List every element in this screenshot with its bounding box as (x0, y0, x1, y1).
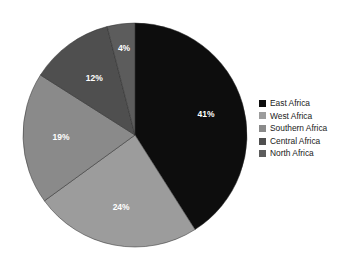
pie-slice-data-label: 4% (118, 43, 131, 53)
legend-swatch-icon (259, 100, 266, 107)
pie-slice-data-label: 19% (53, 132, 70, 142)
legend-item-central-africa[interactable]: Central Africa (259, 135, 349, 148)
legend-item-label: East Africa (270, 97, 310, 110)
pie-slice-data-label: 12% (86, 73, 103, 83)
legend-swatch-icon (259, 138, 266, 145)
legend-item-label: West Africa (270, 110, 312, 123)
legend-swatch-icon (259, 112, 266, 119)
legend-item-north-africa[interactable]: North Africa (259, 147, 349, 160)
legend-item-west-africa[interactable]: West Africa (259, 110, 349, 123)
pie-chart-plot-area: 41%24%19%12%4% (22, 22, 248, 248)
legend-item-southern-africa[interactable]: Southern Africa (259, 122, 349, 135)
legend-swatch-icon (259, 150, 266, 157)
legend-item-label: North Africa (270, 147, 314, 160)
legend-item-label: Southern Africa (270, 122, 327, 135)
legend-item-east-africa[interactable]: East Africa (259, 97, 349, 110)
pie-chart-svg: 41%24%19%12%4% (22, 22, 248, 248)
legend-swatch-icon (259, 125, 266, 132)
pie-slice-data-label: 41% (197, 109, 214, 119)
chart-legend: East AfricaWest AfricaSouthern AfricaCen… (259, 97, 349, 160)
pie-slice-data-label: 24% (113, 202, 130, 212)
pie-chart-figure: 41%24%19%12%4% East AfricaWest AfricaSou… (0, 0, 351, 263)
legend-item-label: Central Africa (270, 135, 320, 148)
